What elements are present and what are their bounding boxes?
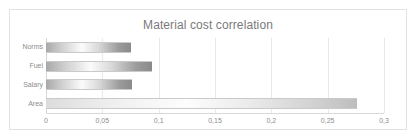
- bar-row: [46, 79, 384, 90]
- gridline-6: [384, 38, 385, 113]
- category-label-fuel: Fuel: [9, 62, 43, 69]
- x-axis-tick-labels: 00,050,10,150,20,250,3: [46, 117, 384, 129]
- bar-row: [46, 61, 384, 72]
- y-axis-category-labels: NormsFuelSalaryArea: [10, 38, 43, 113]
- plot-area: [46, 38, 384, 113]
- category-label-norms: Norms: [9, 43, 43, 50]
- bar-row: [46, 42, 384, 53]
- bar-salary[interactable]: [46, 79, 132, 90]
- x-tick-label-5: 0,25: [321, 117, 335, 124]
- x-tick-label-2: 0,1: [154, 117, 164, 124]
- x-tick-label-4: 0,2: [266, 117, 276, 124]
- bar-row: [46, 98, 384, 109]
- category-label-salary: Salary: [9, 81, 43, 88]
- category-label-area: Area: [9, 100, 43, 107]
- x-tick-label-0: 0: [44, 117, 48, 124]
- x-tick-label-1: 0,05: [96, 117, 110, 124]
- x-tick-label-3: 0,15: [208, 117, 222, 124]
- chart-title: Material cost correlation: [10, 18, 406, 32]
- bar-norms[interactable]: [46, 42, 131, 53]
- x-axis-line: [46, 113, 384, 114]
- x-tick-label-6: 0,3: [379, 117, 389, 124]
- bar-fuel[interactable]: [46, 61, 152, 72]
- chart-container: Material cost correlation NormsFuelSalar…: [9, 9, 407, 130]
- bar-area[interactable]: [46, 98, 357, 109]
